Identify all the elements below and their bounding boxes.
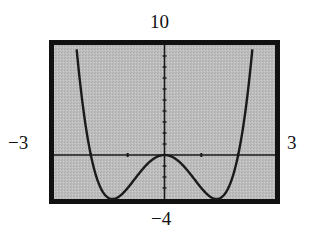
xmin-label: −3 xyxy=(8,133,28,152)
xmax-label: 3 xyxy=(287,133,297,152)
ymin-label: −4 xyxy=(151,209,171,228)
ymax-label: 10 xyxy=(150,12,169,31)
calculator-screen xyxy=(49,40,280,204)
